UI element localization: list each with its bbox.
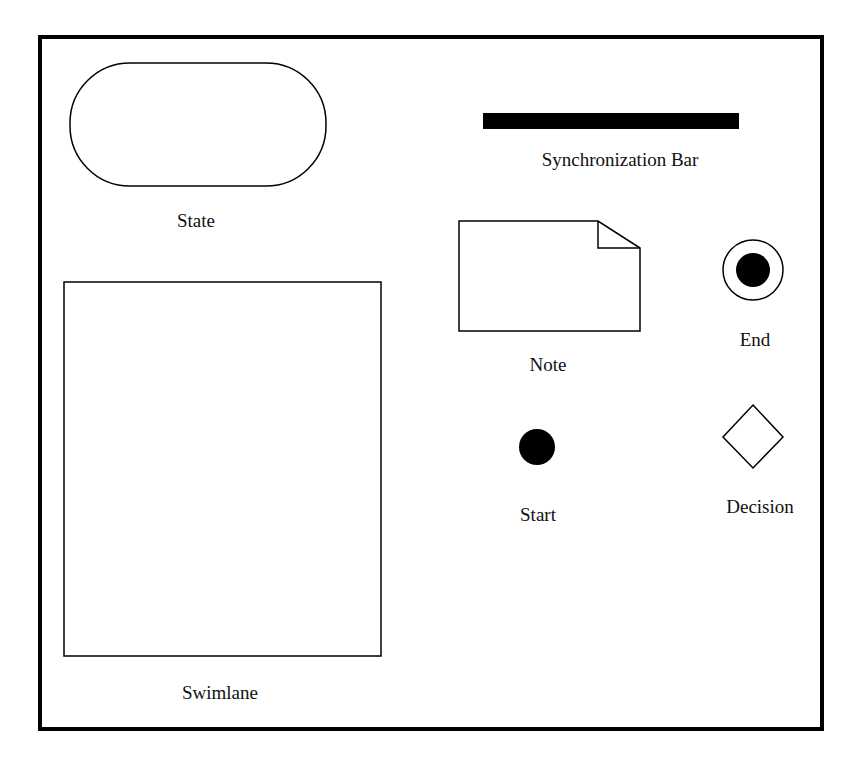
note-shape[interactable] xyxy=(459,221,640,331)
swimlane-label: Swimlane xyxy=(182,683,258,702)
state-label: State xyxy=(177,211,215,230)
decision-label: Decision xyxy=(726,497,794,516)
decision-shape[interactable] xyxy=(723,405,783,468)
state-shape[interactable] xyxy=(70,63,326,186)
end-inner-dot xyxy=(736,253,770,287)
end-label: End xyxy=(740,330,771,349)
note-label: Note xyxy=(530,355,567,374)
start-label: Start xyxy=(520,505,556,524)
sync-bar-label: Synchronization Bar xyxy=(542,150,699,169)
swimlane-shape[interactable] xyxy=(64,282,381,656)
start-shape[interactable] xyxy=(519,429,555,465)
sync-bar-shape[interactable] xyxy=(483,113,739,129)
diagram-canvas xyxy=(0,0,854,761)
